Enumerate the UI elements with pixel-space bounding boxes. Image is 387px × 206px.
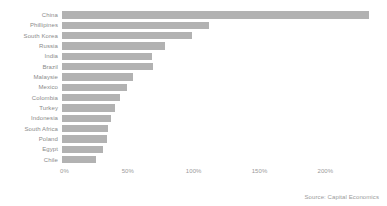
category-label: South Korea	[24, 31, 58, 41]
bar	[62, 146, 103, 153]
plot-area: ChinaPhillipinesSouth KoreaRussiaIndiaBr…	[62, 10, 378, 165]
x-tick-label: 50%	[122, 168, 134, 174]
category-label: Egypt	[42, 144, 58, 154]
x-tick-label: 100%	[186, 168, 202, 174]
bar-row: South Africa	[62, 124, 378, 134]
bar-row: Brazil	[62, 62, 378, 72]
bar	[62, 22, 209, 29]
bar	[62, 84, 127, 91]
bar-row: Phillipines	[62, 20, 378, 30]
bar	[62, 63, 153, 70]
category-label: Indonesia	[31, 113, 58, 123]
bar-row: India	[62, 51, 378, 61]
bar-row: South Korea	[62, 31, 378, 41]
category-label: Turkey	[39, 103, 58, 113]
category-label: India	[44, 51, 58, 61]
category-label: Malaysie	[34, 72, 58, 82]
bar	[62, 135, 107, 142]
bar-row: Colombia	[62, 93, 378, 103]
bar-row: Indonesia	[62, 113, 378, 123]
x-tick-label: 0%	[60, 168, 69, 174]
x-tick-label: 200%	[317, 168, 333, 174]
category-label: Chile	[44, 155, 58, 165]
bar	[62, 94, 120, 101]
category-label: Russia	[39, 41, 58, 51]
bar-row: Malaysie	[62, 72, 378, 82]
bar	[62, 73, 133, 80]
bar-row: Turkey	[62, 103, 378, 113]
category-label: Colombia	[32, 93, 58, 103]
bar	[62, 32, 192, 39]
category-label: Brazil	[42, 62, 58, 72]
bar	[62, 42, 165, 49]
bar	[62, 53, 152, 60]
bar-row: Poland	[62, 134, 378, 144]
bar	[62, 104, 115, 111]
x-axis: 0%50%100%150%200%	[62, 168, 378, 182]
category-label: China	[42, 10, 58, 20]
category-label: South Africa	[24, 124, 58, 134]
bar	[62, 125, 108, 132]
category-label: Mexico	[38, 82, 58, 92]
category-label: Phillipines	[30, 20, 58, 30]
source-note: Source: Capital Economics	[304, 194, 379, 200]
bar-row: Egypt	[62, 144, 378, 154]
bar-chart: ChinaPhillipinesSouth KoreaRussiaIndiaBr…	[0, 0, 387, 206]
x-tick-label: 150%	[252, 168, 268, 174]
bar-row: Russia	[62, 41, 378, 51]
bar	[62, 11, 369, 18]
category-label: Poland	[39, 134, 58, 144]
bar-row: Chile	[62, 155, 378, 165]
bar-row: Mexico	[62, 82, 378, 92]
bar-row: China	[62, 10, 378, 20]
bar	[62, 156, 96, 163]
bar	[62, 115, 111, 122]
